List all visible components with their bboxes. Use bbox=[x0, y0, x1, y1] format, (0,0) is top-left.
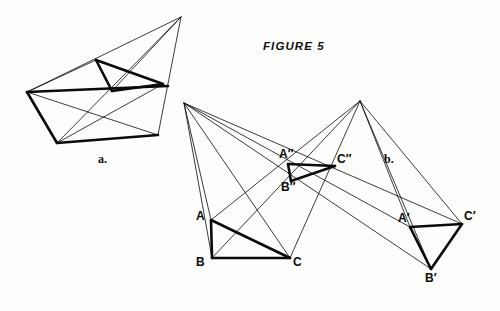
label-A-double-prime: A″ bbox=[279, 148, 293, 160]
line-b-thin-center_left-to-A bbox=[184, 103, 211, 220]
line-b-thin-center_right-to-Cp bbox=[360, 101, 462, 224]
line-a-thin-outer_left-to-inner_top bbox=[27, 60, 96, 92]
label-B-prime: B′ bbox=[425, 272, 437, 284]
line-a-thick-outer_left-to-outer_bottom_left bbox=[27, 92, 57, 143]
line-a-thin-apex-to-outer_bottom_left bbox=[57, 17, 181, 143]
line-a-thin-outer_left-to-outer_bottom_right bbox=[27, 92, 158, 135]
label-A-prime: A′ bbox=[398, 212, 410, 224]
line-b-thick-A-to-B bbox=[211, 220, 212, 258]
line-b-thin-center_right-to-Bp bbox=[360, 101, 431, 269]
line-a-thin-apex-to-outer_left bbox=[27, 17, 181, 92]
figure-drawing bbox=[0, 0, 500, 311]
line-b-thin-center_left-to-B bbox=[184, 103, 212, 258]
panel-a-thin-lines bbox=[27, 17, 181, 143]
line-b-thick-App-to-Bpp bbox=[288, 164, 291, 181]
line-b-thick-Ap-to-Cp bbox=[410, 224, 462, 227]
label-C: C bbox=[293, 256, 302, 268]
line-a-thick-outer_bottom_left-to-outer_bottom_right bbox=[57, 135, 158, 143]
label-C-prime: C′ bbox=[464, 210, 476, 222]
line-b-thick-A-to-C bbox=[211, 220, 290, 258]
line-b-thick-Bpp-to-Cpp bbox=[291, 166, 335, 181]
label-B-double-prime: B″ bbox=[281, 181, 295, 193]
line-b-thick-Bp-to-Cp bbox=[431, 224, 462, 269]
line-b-thin-center_right-to-C bbox=[290, 101, 360, 258]
line-b-thick-Ap-to-Bp bbox=[410, 227, 431, 269]
figure-page: FIGURE 5 a.b. ABCA′B′C′A″B″C″ bbox=[0, 0, 500, 311]
figure-title: FIGURE 5 bbox=[263, 40, 325, 52]
panel-b-thin-lines bbox=[184, 101, 462, 269]
label-B: B bbox=[196, 256, 205, 268]
line-a-thin-apex-to-outer_bottom_right bbox=[158, 17, 181, 135]
line-b-thick-App-to-Cpp bbox=[288, 164, 335, 166]
line-a-thin-outer_bottom_left-to-inner_right bbox=[57, 84, 163, 143]
label-A: A bbox=[196, 210, 205, 222]
line-a-thin-apex-to-inner_bottom bbox=[112, 17, 181, 91]
panel-b-thick-lines bbox=[211, 164, 462, 269]
panel-b-label: b. bbox=[384, 152, 394, 167]
label-C-double-prime: C″ bbox=[337, 153, 351, 165]
panel-a-label: a. bbox=[98, 152, 107, 167]
